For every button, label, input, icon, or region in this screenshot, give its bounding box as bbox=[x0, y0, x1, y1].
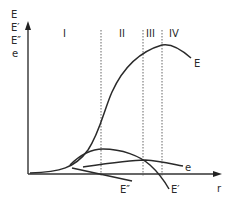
y-label-E-double-prime: E″ bbox=[11, 35, 21, 46]
curve-E bbox=[30, 45, 191, 173]
diagram-canvas: E E′ E″ e I II III IV E e E″ E′ r bbox=[0, 0, 233, 203]
y-label-e: e bbox=[12, 48, 18, 59]
x-axis-label-r: r bbox=[217, 183, 222, 194]
y-axis-arrow-icon bbox=[25, 21, 31, 30]
y-axis-labels: E E′ E″ e bbox=[11, 9, 21, 59]
curve-e bbox=[83, 160, 183, 167]
curve-label-E-double-prime: E″ bbox=[120, 184, 130, 195]
region-label-I: I bbox=[63, 28, 66, 39]
axes bbox=[25, 21, 222, 177]
curves bbox=[30, 45, 191, 189]
curve-label-E-prime: E′ bbox=[171, 184, 180, 195]
curve-label-E: E bbox=[194, 58, 200, 69]
x-axis-arrow-icon bbox=[213, 171, 222, 177]
region-label-IV: IV bbox=[169, 28, 179, 39]
y-label-E: E bbox=[11, 9, 17, 20]
energy-diagram: E E′ E″ e I II III IV E e E″ E′ r bbox=[0, 0, 233, 203]
region-label-III: III bbox=[146, 28, 155, 39]
region-label-II: II bbox=[119, 28, 125, 39]
y-label-E-prime: E′ bbox=[11, 22, 20, 33]
curve-label-e: e bbox=[185, 162, 191, 173]
